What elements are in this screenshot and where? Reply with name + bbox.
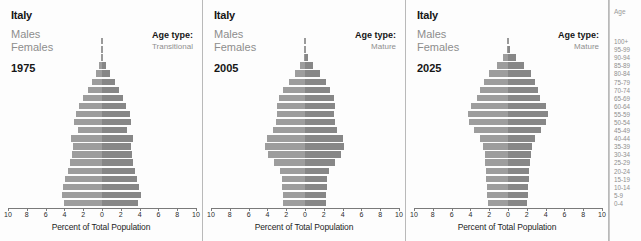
pyramid-row — [211, 111, 399, 119]
female-bar-cell — [102, 168, 196, 176]
pyramid-row — [211, 135, 399, 143]
male-bar — [277, 111, 305, 117]
panel-country-title: Italy — [417, 9, 438, 21]
x-axis-tick-label: 2 — [487, 211, 491, 218]
female-bar — [305, 95, 334, 101]
population-pyramid-figure: ItalyMalesFemales1975Age type:Transition… — [0, 0, 641, 241]
panel-country-title: Italy — [11, 9, 32, 21]
male-bar-cell — [414, 70, 508, 78]
female-bar-cell — [102, 38, 196, 46]
female-bar-cell — [102, 135, 196, 143]
male-bar — [70, 159, 102, 165]
x-axis-tick-label: 6 — [247, 211, 251, 218]
female-bar — [305, 151, 341, 157]
pyramid-row — [414, 168, 602, 176]
male-bar-cell — [414, 111, 508, 119]
male-bar — [484, 79, 508, 85]
male-bar-cell — [211, 184, 305, 192]
female-bar — [305, 70, 320, 76]
pyramid-row — [8, 70, 196, 78]
female-bar-cell — [508, 70, 602, 78]
female-bar — [102, 46, 103, 52]
x-axis-tick-label: 4 — [468, 211, 472, 218]
male-bar — [88, 87, 102, 93]
female-bar — [102, 184, 139, 190]
pyramid-row — [414, 184, 602, 192]
male-bar — [78, 127, 102, 133]
x-axis-title: Percent of Total Population — [406, 222, 608, 232]
x-axis-tick-label: 0 — [303, 211, 307, 218]
age-legend-item: 40-44 — [614, 135, 639, 143]
male-bar-cell — [211, 151, 305, 159]
female-bar — [102, 127, 127, 133]
male-bar-cell — [414, 143, 508, 151]
pyramid-rows — [414, 30, 602, 208]
male-bar-cell — [8, 119, 102, 127]
female-bar — [102, 54, 103, 60]
male-bar-cell — [8, 143, 102, 151]
age-legend-list: 100+95-9990-9485-8980-8475-7970-7465-696… — [614, 30, 639, 208]
x-axis-tick-label: 6 — [562, 211, 566, 218]
female-bar — [305, 87, 330, 93]
female-bar — [508, 184, 528, 190]
x-axis-tick-label: 8 — [581, 211, 585, 218]
male-bar — [283, 192, 305, 198]
female-bar-cell — [508, 135, 602, 143]
male-bar-cell — [414, 184, 508, 192]
pyramid-row — [8, 127, 196, 135]
male-bar-cell — [8, 135, 102, 143]
female-bar-cell — [508, 87, 602, 95]
male-bar — [276, 119, 305, 125]
female-bar-cell — [102, 79, 196, 87]
female-bar-cell — [305, 200, 399, 208]
female-bar-cell — [102, 192, 196, 200]
female-bar — [508, 54, 516, 60]
female-bar — [102, 151, 132, 157]
female-bar — [508, 62, 524, 68]
male-bar — [65, 176, 102, 182]
male-bar — [71, 135, 102, 141]
male-bar-cell — [211, 135, 305, 143]
x-axis-tick-label: 4 — [265, 211, 269, 218]
pyramid-row — [211, 200, 399, 208]
x-axis-tick-label: 8 — [175, 211, 179, 218]
female-bar-cell — [305, 143, 399, 151]
male-bar-cell — [211, 200, 305, 208]
female-bar-cell — [305, 54, 399, 62]
female-bar — [305, 159, 335, 165]
pyramid-row — [8, 168, 196, 176]
female-bar — [508, 151, 531, 157]
x-axis-tick-label: 4 — [341, 211, 345, 218]
male-bar-cell — [8, 151, 102, 159]
female-bar — [102, 87, 119, 93]
female-bar-cell — [508, 38, 602, 46]
pyramid-row — [414, 135, 602, 143]
pyramid-row — [211, 168, 399, 176]
male-bar — [63, 184, 102, 190]
pyramid-row — [211, 184, 399, 192]
x-axis-title: Percent of Total Population — [203, 222, 405, 232]
x-axis-tick-label: 10 — [598, 211, 606, 218]
male-bar-cell — [8, 168, 102, 176]
male-bar — [83, 95, 102, 101]
male-bar-cell — [414, 79, 508, 87]
female-bar — [508, 103, 546, 109]
female-bar — [305, 62, 313, 68]
male-bar — [277, 103, 305, 109]
female-bar-cell — [102, 159, 196, 167]
female-bar — [508, 111, 548, 117]
pyramid-row — [211, 159, 399, 167]
male-bar-cell — [414, 159, 508, 167]
male-bar-cell — [8, 184, 102, 192]
female-bar — [508, 95, 540, 101]
pyramid-row — [8, 200, 196, 208]
male-bar — [282, 184, 305, 190]
male-bar — [68, 168, 102, 174]
x-axis-tick-label: 10 — [395, 211, 403, 218]
male-bar-cell — [8, 95, 102, 103]
age-legend-item: 50-54 — [614, 119, 639, 127]
female-bar-cell — [102, 103, 196, 111]
x-axis-tick-label: 8 — [25, 211, 29, 218]
female-bar-cell — [508, 54, 602, 62]
pyramid-row — [414, 192, 602, 200]
